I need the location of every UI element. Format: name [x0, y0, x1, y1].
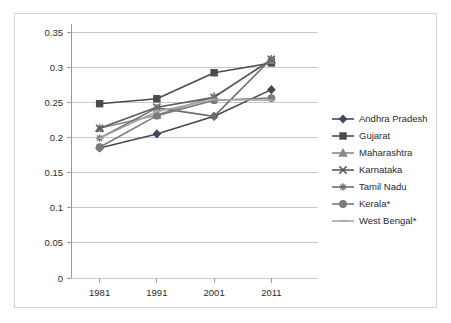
legend-item-label: West Bengal* — [359, 215, 416, 226]
legend-item-label: Karnataka — [359, 164, 402, 175]
legend-marker-icon — [331, 196, 355, 212]
legend-marker-icon — [331, 179, 355, 195]
series-line — [100, 59, 272, 128]
data-point-marker — [340, 133, 346, 139]
y-axis-tick-label: 0.1 — [50, 202, 63, 213]
axis-ticks-group — [67, 24, 271, 283]
data-point-marker — [339, 149, 346, 156]
series-west-bengal — [96, 99, 276, 138]
legend-marker-icon — [331, 145, 355, 161]
x-axis-tick-label: 2001 — [204, 287, 225, 298]
data-point-marker — [339, 183, 346, 190]
series-line — [100, 63, 272, 104]
chart-legend: Andhra PradeshGujaratMaharashtraKarnatak… — [331, 110, 451, 229]
x-axis-tick-label: 2011 — [261, 287, 281, 298]
y-axis-tick-label: 0.2 — [50, 132, 63, 143]
y-axis-tick-label: 0.05 — [45, 237, 64, 248]
data-point-marker — [211, 70, 217, 76]
series-andhra-pradesh — [96, 86, 275, 152]
legend-item-label: Kerala* — [359, 198, 390, 209]
legend-item-karnataka[interactable]: Karnataka — [331, 161, 451, 178]
legend-marker-icon — [331, 128, 355, 144]
legend-marker-icon — [331, 162, 355, 178]
y-axis-tick-label: 0.35 — [45, 27, 64, 38]
x-axis-tick-label: 1991 — [146, 287, 167, 298]
legend-item-tamil-nadu[interactable]: Tamil Nadu — [331, 178, 451, 195]
data-point-marker — [268, 55, 275, 62]
data-point-marker — [154, 96, 160, 102]
data-point-marker — [211, 113, 218, 120]
y-axis-tick-label: 0.3 — [50, 62, 63, 73]
legend-item-gujarat[interactable]: Gujarat — [331, 127, 451, 144]
data-point-marker — [340, 115, 347, 122]
legend-marker-icon — [331, 213, 355, 229]
y-axis-tick-label: 0 — [58, 273, 63, 284]
x-axis-tick-labels: 1981199120012011 — [89, 287, 282, 298]
x-axis-tick-label: 1981 — [89, 287, 110, 298]
data-point-marker — [268, 86, 275, 93]
data-point-marker — [97, 101, 103, 107]
data-point-marker — [153, 130, 160, 137]
data-point-marker — [340, 200, 346, 206]
legend-item-kerala[interactable]: Kerala* — [331, 195, 451, 212]
legend-marker-icon — [331, 111, 355, 127]
legend-item-label: Maharashtra — [359, 147, 412, 158]
legend-item-maharashtra[interactable]: Maharashtra — [331, 144, 451, 161]
legend-item-label: Tamil Nadu — [359, 181, 407, 192]
legend-item-label: Andhra Pradesh — [359, 113, 428, 124]
y-axis-tick-labels: 00.050.10.150.20.250.30.35 — [45, 27, 64, 284]
legend-item-west-bengal[interactable]: West Bengal* — [331, 212, 451, 229]
data-point-marker — [96, 144, 102, 150]
legend-item-andhra-pradesh[interactable]: Andhra Pradesh — [331, 110, 451, 127]
chart-figure: 00.050.10.150.20.250.30.35 1981199120012… — [14, 13, 437, 308]
y-axis-tick-label: 0.15 — [45, 167, 64, 178]
data-point-marker — [154, 112, 160, 118]
legend-item-label: Gujarat — [359, 130, 390, 141]
gridlines-group — [71, 32, 318, 278]
y-axis-tick-label: 0.25 — [45, 97, 64, 108]
